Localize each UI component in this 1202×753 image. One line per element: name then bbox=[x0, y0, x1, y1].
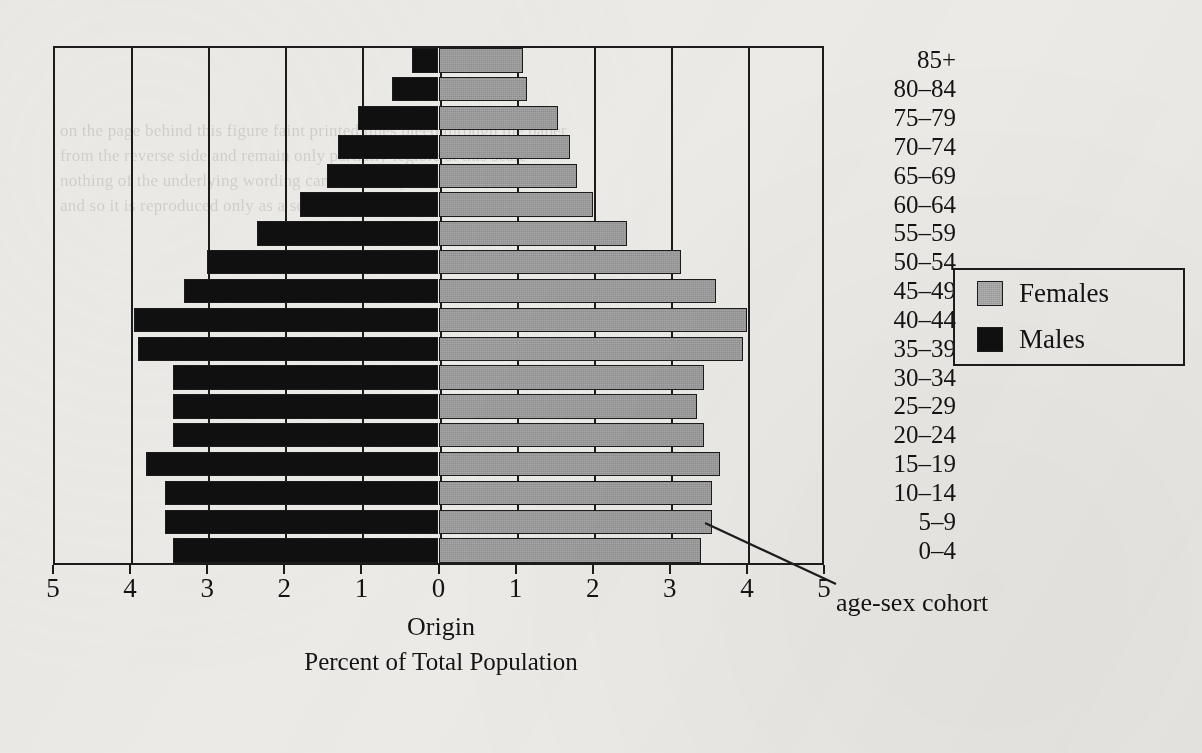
origin-caption: Origin bbox=[0, 612, 1202, 642]
population-pyramid-figure: 54321012345 Origin Percent of Total Popu… bbox=[0, 0, 1202, 753]
bar-row bbox=[53, 334, 824, 363]
bar-female bbox=[439, 452, 720, 476]
bar-male bbox=[184, 279, 438, 303]
cohort-label: 65–69 bbox=[836, 163, 956, 189]
male-swatch-icon bbox=[977, 327, 1003, 352]
bar-female bbox=[439, 279, 717, 303]
cohort-label: 80–84 bbox=[836, 76, 956, 102]
bar-row bbox=[53, 190, 824, 219]
bar-row bbox=[53, 536, 824, 565]
bar-female bbox=[439, 394, 697, 418]
bar-female bbox=[439, 135, 570, 159]
cohort-label: 85+ bbox=[836, 47, 956, 73]
cohort-label: 5–9 bbox=[836, 509, 956, 535]
bar-male bbox=[358, 106, 439, 130]
x-tick-label: 1 bbox=[509, 572, 523, 604]
x-tick-label: 2 bbox=[586, 572, 600, 604]
cohort-label: 40–44 bbox=[836, 307, 956, 333]
bar-row bbox=[53, 219, 824, 248]
bar-row bbox=[53, 450, 824, 479]
cohort-label: 20–24 bbox=[836, 422, 956, 448]
x-tick-label: 3 bbox=[663, 572, 677, 604]
bar-male bbox=[138, 337, 439, 361]
cohort-label: 70–74 bbox=[836, 134, 956, 160]
bar-female bbox=[439, 48, 524, 72]
bar-female bbox=[439, 308, 747, 332]
legend-entry-females: Females bbox=[955, 270, 1183, 316]
cohort-label: 55–59 bbox=[836, 220, 956, 246]
cohort-label: 30–34 bbox=[836, 365, 956, 391]
bar-male bbox=[300, 192, 439, 216]
female-swatch-icon bbox=[977, 281, 1003, 306]
bar-female bbox=[439, 164, 578, 188]
x-axis-title: Percent of Total Population bbox=[0, 648, 1202, 676]
bar-row bbox=[53, 507, 824, 536]
x-tick-label: 0 bbox=[432, 572, 446, 604]
cohort-label: 25–29 bbox=[836, 393, 956, 419]
bar-row bbox=[53, 363, 824, 392]
bar-female bbox=[439, 337, 744, 361]
bar-female bbox=[439, 538, 701, 562]
bar-row bbox=[53, 421, 824, 450]
bar-male bbox=[165, 481, 439, 505]
cohort-label: 10–14 bbox=[836, 480, 956, 506]
bar-row bbox=[53, 75, 824, 104]
bar-row bbox=[53, 104, 824, 133]
bar-female bbox=[439, 221, 628, 245]
x-axis-tick-labels: 54321012345 bbox=[0, 572, 1202, 608]
bar-male bbox=[173, 365, 439, 389]
bar-male bbox=[173, 538, 439, 562]
bar-row bbox=[53, 161, 824, 190]
x-tick-label: 4 bbox=[740, 572, 754, 604]
bar-row bbox=[53, 46, 824, 75]
bar-male bbox=[173, 423, 439, 447]
bar-male bbox=[257, 221, 438, 245]
bar-female bbox=[439, 510, 713, 534]
bar-male bbox=[338, 135, 438, 159]
x-axis-title-text: Percent of Total Population bbox=[304, 648, 577, 676]
bar-female bbox=[439, 250, 682, 274]
cohort-label-column: 85+80–8475–7970–7465–6960–6455–5950–5445… bbox=[836, 46, 956, 565]
legend-label-females: Females bbox=[1019, 278, 1109, 308]
bar-male bbox=[165, 510, 439, 534]
bars-layer bbox=[53, 46, 824, 565]
bar-female bbox=[439, 365, 705, 389]
bar-female bbox=[439, 423, 705, 447]
cohort-label: 15–19 bbox=[836, 451, 956, 477]
legend-label-males: Males bbox=[1019, 324, 1085, 354]
bar-male bbox=[134, 308, 439, 332]
x-tick-label: 2 bbox=[278, 572, 292, 604]
annotation-label: age-sex cohort bbox=[836, 588, 988, 618]
bar-male bbox=[173, 394, 439, 418]
cohort-label: 60–64 bbox=[836, 192, 956, 218]
cohort-label: 50–54 bbox=[836, 249, 956, 275]
x-tick-label: 5 bbox=[817, 572, 831, 604]
x-tick-label: 3 bbox=[200, 572, 214, 604]
bar-female bbox=[439, 77, 528, 101]
bar-row bbox=[53, 277, 824, 306]
bar-male bbox=[207, 250, 438, 274]
bar-male bbox=[327, 164, 439, 188]
x-tick-label: 4 bbox=[123, 572, 137, 604]
bar-row bbox=[53, 479, 824, 508]
bar-row bbox=[53, 392, 824, 421]
bar-row bbox=[53, 133, 824, 162]
cohort-label: 0–4 bbox=[836, 538, 956, 564]
bar-male bbox=[146, 452, 439, 476]
legend-box: Females Males bbox=[953, 268, 1185, 366]
bar-female bbox=[439, 192, 593, 216]
bar-row bbox=[53, 248, 824, 277]
x-tick-label: 5 bbox=[46, 572, 60, 604]
cohort-label: 45–49 bbox=[836, 278, 956, 304]
cohort-label: 35–39 bbox=[836, 336, 956, 362]
bar-male bbox=[392, 77, 438, 101]
legend-entry-males: Males bbox=[955, 316, 1183, 362]
x-tick-label: 1 bbox=[355, 572, 369, 604]
bar-male bbox=[412, 48, 439, 72]
bar-row bbox=[53, 306, 824, 335]
bar-female bbox=[439, 481, 713, 505]
bar-female bbox=[439, 106, 559, 130]
cohort-label: 75–79 bbox=[836, 105, 956, 131]
origin-caption-text: Origin bbox=[407, 612, 475, 642]
